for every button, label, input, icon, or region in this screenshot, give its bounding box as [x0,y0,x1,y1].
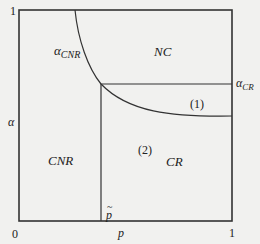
y-max-label: 1 [10,5,16,17]
region-cnr-label: CNR [48,154,73,167]
region-cr-label: CR [166,155,183,168]
diagram-lines [0,0,260,244]
sub-region-1-label: (1) [190,98,204,110]
sub-region-2-label: (2) [138,144,152,156]
y-axis-label: α [8,116,14,128]
tilde-accent: ~ [107,201,112,212]
x-axis-label: p [118,227,124,239]
origin-label: 0 [12,228,18,240]
alpha-cnr-subscript: CNR [61,49,80,60]
alpha-cr-label: αCR [236,77,254,89]
region-diagram: 1 α 0 p 1 ~ p αCR αCNR NC CNR CR (1) (2) [0,0,260,244]
p-tilde-label: ~ p [106,208,112,223]
alpha-cnr-label: αCNR [54,44,80,57]
x-max-label: 1 [229,227,235,239]
alpha-cnr-curve [75,10,232,116]
region-nc-label: NC [154,45,171,58]
alpha-cr-subscript: CR [242,82,254,92]
alpha-cnr-symbol: α [54,43,61,58]
